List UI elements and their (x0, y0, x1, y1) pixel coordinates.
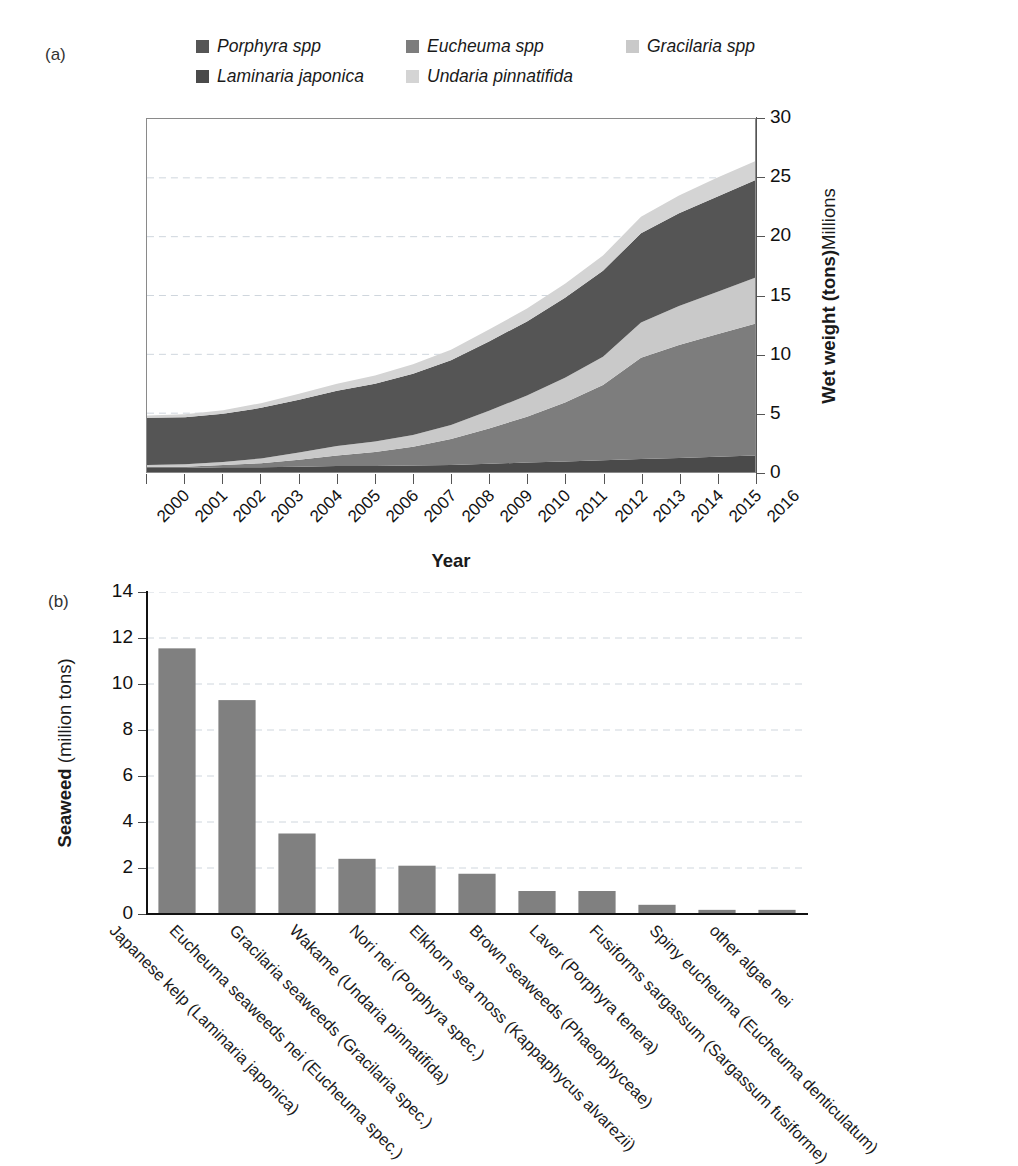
y-tick-mark (138, 730, 146, 731)
chart-b-y-axis-title: Seaweed (million tons) (48, 592, 82, 914)
y-tick-0: 0 (756, 473, 816, 474)
category-label-5: Elkhorn sea moss (Kappaphycus alvarezii) (406, 921, 640, 1155)
legend-row-2: Laminaria japonica Undaria pinnatifida (196, 66, 756, 87)
x-tick-mark (337, 474, 338, 484)
y-tick-mark (138, 638, 146, 639)
chart-a-x-tick-labels: 2000200120022003200420052006200720082009… (146, 486, 806, 546)
legend-item-eucheuma: Eucheuma spp (406, 36, 626, 57)
bar-7 (578, 891, 615, 914)
legend-label-eucheuma: Eucheuma spp (427, 36, 544, 57)
y-tick-label: 14 (112, 580, 133, 602)
y-tick-mark (138, 776, 146, 777)
legend-row-1: Porphyra spp Eucheuma spp Gracilaria spp (196, 36, 756, 57)
x-tick-mark (375, 474, 376, 484)
y-tick-label: 6 (122, 764, 133, 786)
bar-chart (147, 592, 807, 914)
y-tick-2: 2 (88, 868, 146, 869)
y-tick-label: 10 (112, 672, 133, 694)
y-tick-label: 30 (770, 106, 791, 128)
y-tick-mark (756, 355, 765, 356)
y-tick-mark (756, 473, 765, 474)
x-tick-mark (718, 474, 719, 484)
legend-swatch-eucheuma (406, 40, 419, 53)
chart-a-legend: Porphyra spp Eucheuma spp Gracilaria spp… (196, 36, 756, 96)
legend-swatch-gracilaria (626, 40, 639, 53)
bar-4 (398, 866, 435, 914)
y-tick-10: 10 (88, 684, 146, 685)
y-tick-label: 8 (122, 718, 133, 740)
x-tick-label-2005: 2005 (344, 486, 385, 527)
legend-label-undaria: Undaria pinnatifida (427, 66, 573, 87)
chart-a-y-title-suffix: Millions (818, 188, 839, 250)
legend-item-porphyra: Porphyra spp (196, 36, 406, 57)
chart-b-y-title-suffix: (million tons) (54, 658, 75, 763)
y-tick-8: 8 (88, 730, 146, 731)
category-label-9: Spiny eucheuma (Eucheuma denticulatum) (646, 921, 883, 1158)
y-tick-mark (138, 592, 146, 593)
x-tick-label-2010: 2010 (534, 486, 575, 527)
bar-2 (278, 834, 315, 915)
legend-label-porphyra: Porphyra spp (217, 36, 321, 57)
area-plot-svg (147, 119, 755, 472)
y-tick-mark (756, 296, 765, 297)
y-tick-15: 15 (756, 296, 816, 297)
x-tick-mark (184, 474, 185, 484)
y-tick-label: 12 (112, 626, 133, 648)
y-tick-mark (756, 177, 765, 178)
chart-b-y-axis-spine (146, 591, 148, 915)
x-tick-label-2011: 2011 (572, 486, 612, 526)
y-tick-label: 4 (122, 810, 133, 832)
x-tick-mark (260, 474, 261, 484)
x-tick-mark (146, 474, 147, 484)
legend-label-laminaria: Laminaria japonica (217, 66, 364, 87)
x-tick-label-2016: 2016 (763, 486, 804, 527)
x-tick-mark (642, 474, 643, 484)
x-tick-mark (604, 474, 605, 484)
y-tick-label: 0 (770, 461, 781, 483)
y-tick-5: 5 (756, 414, 816, 415)
x-tick-label-2014: 2014 (687, 486, 728, 527)
y-tick-4: 4 (88, 822, 146, 823)
y-tick-12: 12 (88, 638, 146, 639)
legend-item-gracilaria: Gracilaria spp (626, 36, 755, 57)
x-tick-label-2001: 2001 (191, 486, 232, 527)
bar-6 (518, 891, 555, 914)
y-tick-label: 2 (122, 856, 133, 878)
y-tick-10: 10 (756, 355, 816, 356)
x-tick-mark (565, 474, 566, 484)
y-tick-label: 20 (770, 224, 791, 246)
x-tick-label-2013: 2013 (649, 486, 690, 527)
stacked-area-chart (146, 118, 756, 473)
x-tick-label-2000: 2000 (153, 486, 194, 527)
y-tick-14: 14 (88, 592, 146, 593)
bar-3 (338, 859, 375, 914)
bar-0 (158, 648, 195, 914)
legend-item-undaria: Undaria pinnatifida (406, 66, 573, 87)
x-tick-label-2007: 2007 (420, 486, 461, 527)
x-tick-label-2004: 2004 (306, 486, 347, 527)
y-tick-mark (756, 414, 765, 415)
legend-swatch-porphyra (196, 40, 209, 53)
y-tick-6: 6 (88, 776, 146, 777)
y-tick-mark (138, 822, 146, 823)
x-tick-mark (527, 474, 528, 484)
chart-b-y-title-main: Seaweed (54, 768, 75, 847)
bar-5 (458, 874, 495, 914)
y-tick-label: 25 (770, 165, 791, 187)
chart-a-y-axis: 051015202530 (756, 118, 816, 473)
y-tick-mark (756, 236, 765, 237)
y-tick-mark (138, 868, 146, 869)
chart-a-y-axis-title: Wet weight (tons)Millions (812, 118, 846, 473)
y-tick-label: 5 (770, 402, 781, 424)
chart-a-x-axis-title: Year (146, 550, 756, 572)
x-tick-mark (489, 474, 490, 484)
y-tick-label: 15 (770, 284, 791, 306)
x-tick-mark (680, 474, 681, 484)
x-tick-mark (756, 474, 757, 484)
x-tick-label-2006: 2006 (382, 486, 423, 527)
y-tick-25: 25 (756, 177, 816, 178)
x-tick-label-2003: 2003 (267, 486, 308, 527)
x-tick-mark (413, 474, 414, 484)
chart-b-y-axis: 02468101214 (88, 592, 146, 914)
legend-item-laminaria: Laminaria japonica (196, 66, 406, 87)
